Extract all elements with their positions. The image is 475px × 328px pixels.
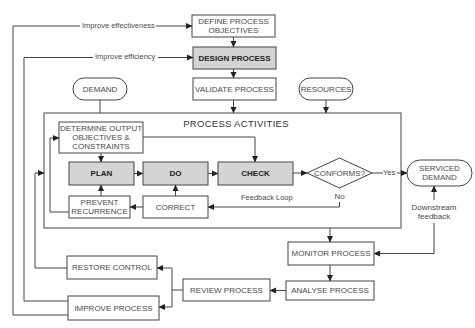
do-node: DO bbox=[143, 162, 208, 185]
correct-node: CORRECT bbox=[143, 196, 208, 218]
svg-text:VALIDATE PROCESS: VALIDATE PROCESS bbox=[195, 85, 274, 94]
svg-text:RESTORE CONTROL: RESTORE CONTROL bbox=[72, 263, 152, 272]
analyse-process-node: ANALYSE PROCESS bbox=[286, 281, 374, 300]
svg-text:PROCESS ACTIVITIES: PROCESS ACTIVITIES bbox=[183, 118, 289, 129]
improve-process-node: IMPROVE PROCESS bbox=[68, 296, 159, 320]
improve-effectiveness-label: Improve effectiveness bbox=[82, 21, 155, 30]
feedback-loop-label: Feedback Loop bbox=[241, 193, 293, 202]
svg-text:MONITOR PROCESS: MONITOR PROCESS bbox=[292, 249, 371, 258]
svg-text:CONFORMS?: CONFORMS? bbox=[314, 169, 366, 178]
check-node: CHECK bbox=[218, 162, 293, 185]
svg-text:DEMAND: DEMAND bbox=[83, 85, 118, 94]
svg-text:DETERMINE OUTPUT: DETERMINE OUTPUT bbox=[60, 124, 142, 133]
serviced-demand-terminal: SERVICED DEMAND bbox=[407, 160, 472, 186]
svg-text:DEFINE PROCESS: DEFINE PROCESS bbox=[198, 17, 269, 26]
svg-text:RESOURCES: RESOURCES bbox=[301, 85, 352, 94]
downstream-label-1: Downstream bbox=[412, 203, 457, 212]
downstream-label-2: feedback bbox=[418, 212, 451, 221]
svg-text:PLAN: PLAN bbox=[91, 169, 113, 178]
define-process-objectives-node: DEFINE PROCESS OBJECTIVES bbox=[192, 15, 275, 37]
svg-text:DEMAND: DEMAND bbox=[422, 173, 457, 182]
svg-text:PREVENT: PREVENT bbox=[81, 198, 119, 207]
svg-text:DESIGN PROCESS: DESIGN PROCESS bbox=[198, 54, 271, 63]
determine-output-node: DETERMINE OUTPUT OBJECTIVES & CONSTRAINT… bbox=[59, 122, 143, 153]
restore-control-node: RESTORE CONTROL bbox=[67, 256, 157, 279]
demand-terminal: DEMAND bbox=[73, 78, 127, 100]
prevent-recurrence-node: PREVENT RECURRENCE bbox=[69, 196, 130, 218]
review-process-node: REVIEW PROCESS bbox=[183, 279, 270, 301]
svg-text:RECURRENCE: RECURRENCE bbox=[71, 207, 127, 216]
resources-terminal: RESOURCES bbox=[299, 78, 353, 100]
yes-label: Yes bbox=[383, 168, 395, 177]
svg-text:DO: DO bbox=[170, 169, 182, 178]
no-label: No bbox=[334, 192, 345, 201]
svg-text:CONSTRAINTS: CONSTRAINTS bbox=[72, 142, 129, 151]
validate-process-node: VALIDATE PROCESS bbox=[193, 78, 276, 100]
svg-text:REVIEW PROCESS: REVIEW PROCESS bbox=[190, 286, 263, 295]
svg-text:OBJECTIVES &: OBJECTIVES & bbox=[72, 133, 130, 142]
svg-text:ANALYSE PROCESS: ANALYSE PROCESS bbox=[291, 286, 369, 295]
plan-node: PLAN bbox=[69, 162, 134, 185]
monitor-process-node: MONITOR PROCESS bbox=[288, 242, 374, 265]
improve-efficiency-label: Improve efficiency bbox=[95, 52, 156, 61]
svg-text:CORRECT: CORRECT bbox=[156, 203, 196, 212]
svg-text:OBJECTIVES: OBJECTIVES bbox=[209, 26, 259, 35]
design-process-node: DESIGN PROCESS bbox=[193, 47, 276, 69]
process-control-diagram: DEFINE PROCESS OBJECTIVES DESIGN PROCESS… bbox=[0, 0, 475, 328]
svg-text:CHECK: CHECK bbox=[241, 169, 270, 178]
svg-text:IMPROVE PROCESS: IMPROVE PROCESS bbox=[74, 304, 152, 313]
svg-text:SERVICED: SERVICED bbox=[419, 164, 460, 173]
